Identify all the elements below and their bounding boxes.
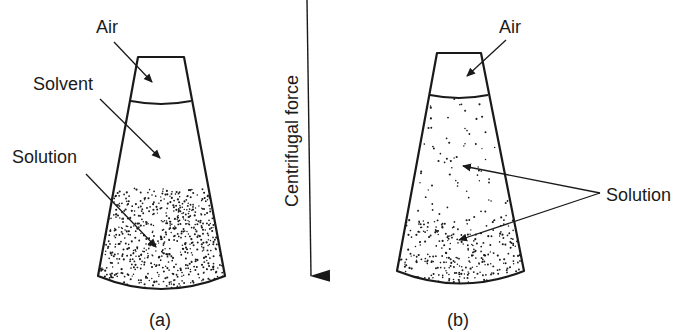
caption-a: (a) (149, 310, 171, 330)
label-solvent-a: Solvent (33, 74, 93, 94)
leader-air-b (467, 40, 506, 76)
label-air-a: Air (96, 17, 118, 37)
solution-stipple-b (394, 98, 528, 297)
centrifugal-force-arrow (307, 0, 311, 276)
centrifugation-diagram: Air Solvent Solution (a) Centrifugal for… (0, 0, 687, 332)
label-air-b: Air (499, 17, 521, 37)
leader-air-a (114, 42, 152, 82)
meniscus-a (131, 101, 191, 104)
label-solution-b: Solution (606, 185, 671, 205)
leader-solution-b-lower (459, 193, 600, 240)
label-solution-a: Solution (12, 147, 77, 167)
leader-solution-b-upper (463, 166, 600, 193)
leader-solvent-a (100, 99, 160, 158)
leader-solution-a (86, 174, 156, 247)
caption-b: (b) (447, 310, 469, 330)
tube-b-outline (397, 53, 524, 284)
meniscus-b (430, 95, 488, 98)
tube-a (94, 57, 228, 301)
label-centrifugal-force: Centrifugal force (282, 75, 302, 207)
tube-a-outline (98, 57, 225, 289)
